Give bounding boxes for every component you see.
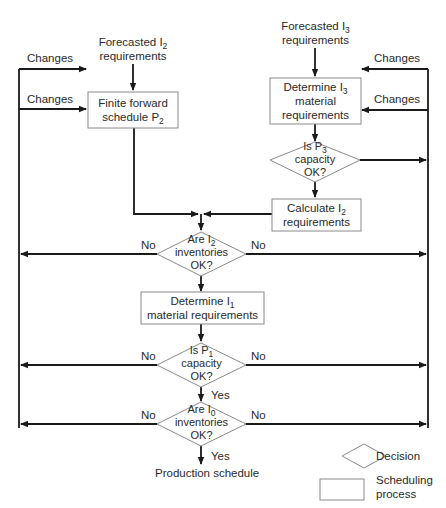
changes-label-right-mid: Changes <box>374 92 420 106</box>
p1-no-left-label: No <box>141 349 156 363</box>
legend-process-box <box>320 479 364 500</box>
i2-inventories-text: Are I2 inventories OK? <box>157 233 246 272</box>
i0-inventories-text: Are I0 inventories OK? <box>157 403 246 442</box>
i0-no-right-label: No <box>251 408 266 422</box>
changes-label-left-mid: Changes <box>27 92 73 106</box>
legend-decision-label: Decision <box>376 449 420 463</box>
i0-no-left-label: No <box>141 408 156 422</box>
forecast-i2-label: Forecasted I2 requirements <box>88 35 178 63</box>
calculate-i2-text: Calculate I2 requirements <box>272 201 361 229</box>
i2-no-left-label: No <box>141 238 156 252</box>
p3-capacity-text: Is P3 capacity OK? <box>270 140 360 179</box>
p1-capacity-text: Is P1 capacity OK? <box>157 344 246 383</box>
determine-i3-text: Determine I3 material requirements <box>270 80 361 122</box>
p1-no-right-label: No <box>251 349 266 363</box>
forecast-i3-label: Forecasted I3 requirements <box>270 19 361 47</box>
changes-label-right-top: Changes <box>374 51 420 65</box>
determine-i1-text: Determine I1 material requirements <box>141 294 264 322</box>
p1-yes-label: Yes <box>211 388 230 402</box>
i0-yes-label: Yes <box>211 449 230 463</box>
legend-process-label: Scheduling process <box>376 473 433 501</box>
production-schedule-label: Production schedule <box>155 466 259 480</box>
changes-label-left-top: Changes <box>27 51 73 65</box>
finite-forward-text: Finite forward schedule P2 <box>88 96 178 124</box>
i2-no-right-label: No <box>251 238 266 252</box>
